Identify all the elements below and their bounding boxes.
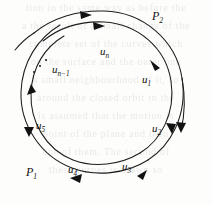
outer-spiral-path-lower: [21, 25, 148, 173]
arrowhead-outer-right-end: [176, 122, 186, 133]
label-u2-sub: 2: [158, 129, 162, 137]
label-p1-sub: 1: [33, 172, 37, 181]
outer-spiral-path: [34, 11, 183, 160]
label-u5-sub: 5: [42, 126, 46, 134]
arrowhead-inner-top: [93, 22, 105, 30]
arrowhead-u2: [166, 123, 176, 134]
arrowhead-outer-left: [27, 84, 36, 95]
label-u4-sub: 4: [74, 170, 78, 178]
label-u5: u5: [36, 120, 45, 134]
label-un-minus-1-sub: n−1: [58, 70, 70, 78]
label-p2: P2: [152, 10, 163, 25]
label-u1: u1: [142, 74, 151, 88]
arrowhead-u3: [137, 170, 147, 180]
label-un: un: [100, 46, 109, 60]
arrowhead-u1: [150, 60, 160, 71]
label-un-minus-1: un−1: [52, 64, 70, 78]
spiral-diagram-figure: tion in the same way as before the a the…: [0, 0, 212, 205]
label-u4: u4: [68, 164, 77, 178]
label-u3: u3: [122, 161, 131, 175]
label-u2: u2: [152, 123, 161, 137]
label-p2-sub: 2: [159, 16, 163, 25]
outer-spiral-tail: [15, 33, 34, 50]
label-un-sub: n: [106, 52, 110, 60]
label-u3-sub: 3: [128, 167, 132, 175]
inner-spiral-path-lower: [31, 36, 140, 164]
label-p1: P1: [26, 166, 37, 181]
label-u1-sub: 1: [148, 80, 152, 88]
